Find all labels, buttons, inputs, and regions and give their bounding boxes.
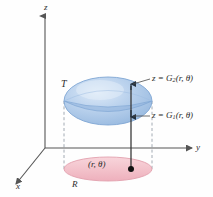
leader-upper-surface <box>133 79 150 84</box>
z-axis-label: z <box>44 3 48 12</box>
figure-canvas <box>0 0 213 197</box>
solid-region-t <box>64 77 152 125</box>
x-axis-label: x <box>16 182 20 191</box>
lower-surface-label: z = G1(r, θ) <box>152 111 193 120</box>
lower-surface-prefix: z = G <box>152 110 173 120</box>
polar-point-label: (r, θ) <box>88 160 105 169</box>
figure-container: z y x T R (r, θ) z = G2(r, θ) z = G1(r, … <box>0 0 213 197</box>
x-axis <box>16 148 45 184</box>
region-label-r: R <box>72 180 78 189</box>
y-axis-label: y <box>196 143 200 152</box>
solid-highlight <box>76 80 124 100</box>
lower-surface-args: (r, θ) <box>176 110 193 120</box>
upper-surface-prefix: z = G <box>152 73 173 83</box>
upper-surface-args: (r, θ) <box>176 73 193 83</box>
upper-surface-label: z = G2(r, θ) <box>152 74 193 83</box>
solid-label-t: T <box>61 79 67 89</box>
polar-region-disk <box>64 157 152 181</box>
region-ellipse <box>64 157 152 181</box>
polar-point-dot <box>128 166 134 172</box>
